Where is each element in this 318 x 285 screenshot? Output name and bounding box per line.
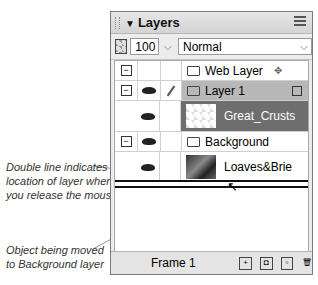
- annotation-line: Double line indicates: [6, 160, 117, 174]
- layer-row-layer1[interactable]: − Layer 1: [115, 81, 308, 101]
- panel-footer: Frame 1 + ◘ ▫ 🗑: [111, 251, 312, 274]
- folder-icon: [187, 66, 200, 76]
- annotation-line: to Background layer: [6, 257, 104, 271]
- object-name: Great_Crusts: [224, 109, 295, 123]
- eye-icon[interactable]: [142, 138, 156, 145]
- add-mask-icon[interactable]: ◘: [260, 257, 273, 270]
- annotation-moving-object: Object being moved to Background layer: [6, 243, 104, 271]
- photo-thumbnail: [186, 155, 216, 179]
- object-row-great-crusts[interactable]: Great_Crusts: [115, 101, 308, 132]
- mask-icon: [115, 39, 127, 54]
- collapse-icon[interactable]: −: [121, 85, 132, 96]
- panel-title[interactable]: ▼Layers: [125, 15, 180, 30]
- eye-icon[interactable]: [141, 113, 155, 120]
- new-layer-icon[interactable]: ▫: [281, 257, 294, 270]
- object-row-loaves-brie[interactable]: Loaves&Brie: [115, 152, 308, 182]
- frame-label[interactable]: Frame 1: [151, 256, 231, 270]
- opacity-dropdown-icon[interactable]: ⌵: [162, 38, 175, 55]
- layer-name: Background: [205, 135, 269, 149]
- panel-title-label: Layers: [138, 15, 180, 30]
- new-sublayer-icon[interactable]: +: [239, 257, 252, 270]
- object-name: Loaves&Brie: [224, 160, 292, 174]
- pencil-icon[interactable]: [167, 85, 176, 96]
- web-layer-icon: ✥: [274, 65, 282, 76]
- eye-icon[interactable]: [142, 87, 156, 94]
- collapse-icon[interactable]: −: [121, 65, 132, 76]
- collapse-icon[interactable]: −: [121, 136, 132, 147]
- blend-mode-select[interactable]: Normal⌵: [178, 38, 312, 55]
- opacity-blend-row: 100 ⌵ Normal⌵: [111, 34, 312, 60]
- layers-panel: ▼Layers 100 ⌵ Normal⌵ − Web Layer✥ − Lay…: [110, 11, 313, 275]
- annotation-drop-line: Double line indicates location of layer …: [6, 160, 117, 202]
- folder-icon: [187, 86, 200, 96]
- layer-name: Web Layer: [205, 64, 263, 78]
- selection-square-icon[interactable]: [292, 86, 302, 96]
- eye-icon[interactable]: [141, 164, 155, 171]
- layer-row-web[interactable]: − Web Layer✥: [115, 61, 308, 81]
- layer-row-background[interactable]: − Background: [115, 132, 308, 152]
- drop-indicator-line: [115, 180, 308, 188]
- grip-icon[interactable]: [115, 17, 120, 29]
- panel-titlebar[interactable]: ▼Layers: [111, 12, 312, 34]
- annotation-line: you release the mouse: [6, 188, 117, 202]
- options-menu-icon[interactable]: [294, 16, 306, 28]
- folder-icon: [187, 137, 200, 147]
- cursor-arrow-icon: ↖: [227, 179, 238, 194]
- chevron-down-icon: ⌵: [300, 39, 308, 55]
- layer-name: Layer 1: [205, 84, 245, 98]
- layers-list: − Web Layer✥ − Layer 1 Great_Crusts − Ba…: [114, 60, 309, 254]
- transparent-thumbnail: [186, 104, 216, 128]
- opacity-field[interactable]: 100: [130, 38, 159, 55]
- annotation-line: Object being moved: [6, 243, 104, 257]
- blend-mode-value: Normal: [183, 40, 222, 54]
- collapse-triangle-icon[interactable]: ▼: [125, 18, 135, 29]
- annotation-line: location of layer when: [6, 174, 117, 188]
- trash-icon[interactable]: 🗑: [301, 258, 312, 269]
